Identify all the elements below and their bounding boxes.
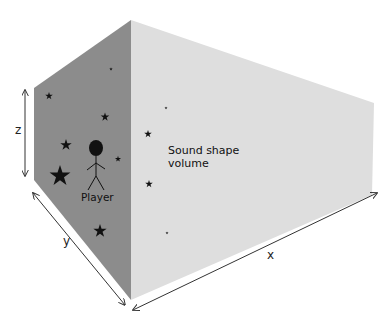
z-axis-label: z — [15, 124, 21, 138]
x-axis-label: x — [267, 249, 274, 263]
volume-label: Sound shape volume — [168, 145, 239, 170]
volume-label-line1: Sound shape — [168, 145, 239, 158]
y-axis-label: y — [63, 235, 70, 249]
volume-left-face — [34, 20, 131, 300]
player-label: Player — [81, 191, 114, 203]
volume-label-line2: volume — [168, 158, 239, 171]
